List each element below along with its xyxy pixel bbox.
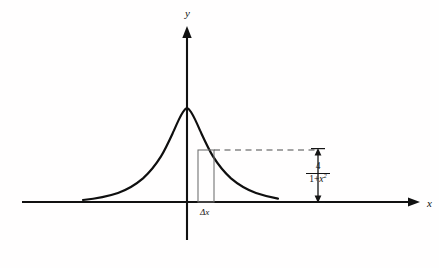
delta-x-strip-rect	[198, 150, 214, 202]
fraction-denominator-prefix: 1+	[309, 174, 319, 184]
fraction-denominator-exponent: 2	[324, 172, 327, 179]
lorentzian-curve	[83, 108, 278, 200]
y-axis-label: y	[185, 8, 190, 19]
x-axis-arrowhead	[408, 197, 420, 206]
plot-svg	[0, 0, 439, 268]
delta-x-label: Δx	[200, 208, 209, 217]
height-fraction-label: 4 1+x2	[306, 162, 330, 185]
y-axis-arrowhead	[182, 26, 191, 38]
figure-canvas: y x Δx 4 1+x2	[0, 0, 439, 268]
fraction-denominator: 1+x2	[306, 174, 330, 184]
x-axis-label: x	[427, 198, 432, 209]
